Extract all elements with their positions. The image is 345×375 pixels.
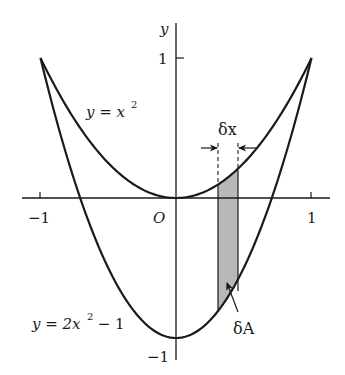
x-tick-label-1: 1 xyxy=(307,209,317,227)
lower-curve-label: y = 2x 2 − 1 xyxy=(31,311,125,333)
delta-x-label: δx xyxy=(218,120,237,139)
x-tick-label-neg1: −1 xyxy=(28,209,50,227)
upper-curve-label-exponent: 2 xyxy=(131,99,137,110)
y-axis-label: y xyxy=(159,20,169,38)
lower-curve-label-tail: − 1 xyxy=(93,315,125,333)
upper-curve-label: y = x 2 xyxy=(85,99,137,121)
y-tick-label-1: 1 xyxy=(158,50,168,68)
area-between-curves-diagram: y 1 −1 −1 1 O y = x 2 y = 2x 2 − 1 δx δA xyxy=(0,0,345,375)
origin-label: O xyxy=(153,209,165,227)
y-tick-label-neg1: −1 xyxy=(147,348,169,366)
shaded-strip-delta-a xyxy=(218,169,238,311)
delta-a-label: δA xyxy=(233,319,255,338)
upper-curve-label-main: y = x xyxy=(85,103,126,121)
lower-curve-label-main: y = 2x xyxy=(31,315,81,333)
